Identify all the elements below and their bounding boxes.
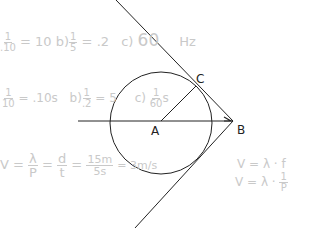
- note-row-1: 1.10 = 10 b)15 = .2 c) 60 Hz: [0, 32, 196, 53]
- point-label-b: B: [237, 123, 245, 137]
- formula-velocity-period: V = λ · 1P: [235, 172, 288, 193]
- point-label-a: A: [151, 124, 159, 138]
- note-row-2: 110 = .10s b)1.2 = 5 c) 160s: [2, 88, 169, 109]
- note-row-3: V = λP = dt = 15m5s = 3m/s: [0, 152, 157, 179]
- point-label-c: C: [196, 72, 204, 86]
- formula-velocity-frequency: V = λ · f: [237, 158, 286, 170]
